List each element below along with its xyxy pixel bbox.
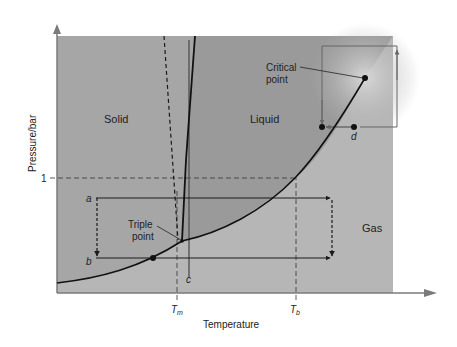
path-label-d: d	[351, 131, 357, 142]
point-b-on-curve	[150, 255, 156, 261]
y-tick-1: 1	[41, 173, 47, 184]
region-label-gas: Gas	[362, 222, 383, 234]
region-label-solid: Solid	[104, 113, 128, 125]
y-axis-arrow-icon	[53, 24, 61, 34]
region-label-liquid: Liquid	[250, 113, 279, 125]
path-label-a: a	[86, 193, 92, 204]
phase-diagram: Solid Liquid Gas Triple point Critical p…	[0, 0, 457, 347]
critical-point-label-2: point	[266, 74, 288, 85]
triple-point-label-1: Triple	[128, 219, 153, 230]
x-tick-tb: Tb	[290, 304, 300, 316]
triple-point-label-2: point	[132, 231, 154, 242]
x-axis-label: Temperature	[203, 319, 260, 330]
critical-point-label-1: Critical	[266, 62, 297, 73]
point-d-left	[319, 124, 325, 130]
path-label-b: b	[86, 256, 92, 267]
y-axis-label: Pressure/bar	[27, 114, 38, 172]
path-label-c: c	[186, 274, 191, 285]
x-tick-tm: Tm	[171, 304, 183, 316]
point-d-right	[351, 124, 357, 130]
x-axis-arrow-icon	[424, 289, 437, 297]
